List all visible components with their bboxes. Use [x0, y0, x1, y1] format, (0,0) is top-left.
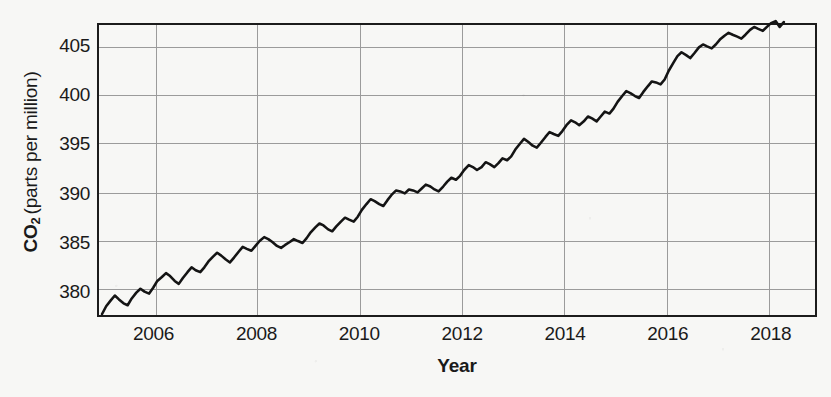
x-tick-label-2008: 2008	[216, 324, 296, 343]
x-tick-label-2012: 2012	[422, 324, 502, 343]
y-tick-label-390: 390	[44, 184, 90, 203]
y-tick-label-385: 385	[44, 233, 90, 252]
gridlines	[99, 25, 815, 315]
co2-data-line	[102, 21, 784, 314]
x-tick-label-2006: 2006	[114, 324, 194, 343]
co2-line-chart-figure: CO2(parts per million) 38038539039540040…	[0, 0, 831, 397]
plot-area	[97, 23, 817, 317]
x-tick-label-2018: 2018	[731, 324, 811, 343]
y-tick-label-395: 395	[44, 134, 90, 153]
y-tick-label-405: 405	[44, 36, 90, 55]
x-axis-tick-labels: 2006200820102012201420162018	[0, 324, 831, 350]
x-axis-title: Year	[97, 355, 817, 377]
x-tick-label-2010: 2010	[319, 324, 399, 343]
y-tick-label-380: 380	[44, 282, 90, 301]
x-tick-label-2014: 2014	[525, 324, 605, 343]
plot-svg	[99, 25, 815, 315]
x-tick-label-2016: 2016	[628, 324, 708, 343]
y-tick-label-400: 400	[44, 85, 90, 104]
